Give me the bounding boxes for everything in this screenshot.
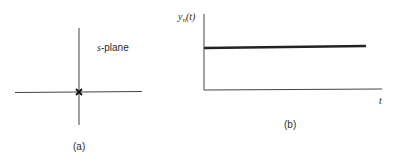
caption-a: (a) xyxy=(73,141,85,152)
caption-b: (b) xyxy=(284,119,296,130)
response-curve-constant xyxy=(204,46,366,48)
panel-b-time-response: yn(t) t (b) xyxy=(177,11,382,130)
s-plane-label: s-plane xyxy=(97,42,129,53)
panel-a-s-plane: s-plane (a) xyxy=(15,28,142,152)
x-axis-label: t xyxy=(379,95,382,106)
x-axis xyxy=(204,89,382,90)
figure: s-plane (a) yn(t) t (b) xyxy=(0,0,394,163)
y-axis-label: yn(t) xyxy=(177,11,196,24)
